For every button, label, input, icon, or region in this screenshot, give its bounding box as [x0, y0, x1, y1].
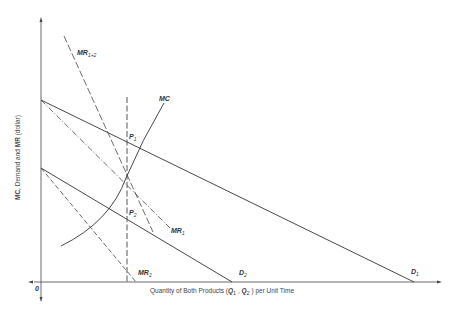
label-mr1: MR1: [171, 227, 185, 236]
origin-label: 0: [35, 285, 39, 292]
x-axis-arrow-right-icon: [437, 281, 442, 284]
label-p2: P2: [129, 209, 136, 218]
marginal-revenue-mr1: [41, 100, 170, 228]
marginal-cost-curve: [61, 103, 164, 246]
label-mc: MC: [159, 95, 170, 102]
demand-curve-d1: [41, 100, 414, 282]
demand-curve-d2: [41, 168, 232, 282]
x-axis-label: Quantity of Both Products (Q1 , Q2 ) per…: [150, 287, 294, 296]
marginal-revenue-mr1plus2: [64, 36, 153, 232]
y-axis-arrow-down-icon: [40, 297, 43, 302]
label-mr2: MR2: [138, 269, 152, 278]
label-mr1plus2: MR1+2: [77, 49, 96, 58]
y-axis-arrow-up-icon: [40, 17, 43, 22]
diagram-canvas: [0, 0, 460, 316]
label-d1: D1: [411, 268, 419, 277]
x-axis-arrow-left-icon: [28, 281, 33, 284]
y-axis-label: MC, Demand and MR (dollar): [14, 115, 21, 200]
label-d2: D2: [239, 269, 247, 278]
marginal-revenue-mr2: [41, 168, 136, 282]
label-p1: P1: [129, 133, 136, 142]
